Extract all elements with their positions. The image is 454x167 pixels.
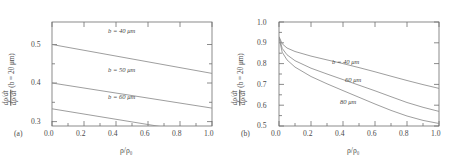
panel-b-axes xyxy=(279,22,439,126)
panel-a-xtick-3: 0.6 xyxy=(140,129,150,138)
panel-a-axes xyxy=(52,22,212,126)
panel-a-xtick-1: 0.2 xyxy=(76,129,86,138)
panel-b-xtick-5: 1.0 xyxy=(431,129,441,138)
panel-a-ytick-1: 0.4 xyxy=(31,78,41,87)
panel-a-x-axis-label: ρ/ρ₀ xyxy=(120,146,132,155)
panel-b-ytick-3: 0.7 xyxy=(257,80,267,89)
panel-b-curve-label-b40: b = 40 μm xyxy=(332,58,359,65)
panel-b-tag: (b) xyxy=(241,129,250,138)
panel-a-ytick-2: 0.3 xyxy=(31,117,41,126)
panel-a-xtick-0: 0.0 xyxy=(44,129,54,138)
panel-b-xtick-0: 0.0 xyxy=(271,129,281,138)
panel-b-curve-label-b80: 80 μm xyxy=(340,98,356,105)
panel-b-x-axis-label: ρ/ρ₀ xyxy=(347,146,359,155)
panel-b-ytick-2: 0.8 xyxy=(257,59,267,68)
panel-b-x-ticks xyxy=(279,22,439,126)
panel-b-xtick-1: 0.2 xyxy=(303,129,313,138)
panel-a-ytick-0: 0.5 xyxy=(31,40,41,49)
panel-b-xtick-4: 0.8 xyxy=(399,129,409,138)
panel-a-xtick-4: 0.8 xyxy=(172,129,182,138)
panel-b: dρ/dt dρ/dt (b = 20 μm) xyxy=(227,0,454,167)
panel-a-tag: (a) xyxy=(14,129,22,138)
panel-b-xtick-3: 0.6 xyxy=(367,129,377,138)
panel-b-xtick-2: 0.4 xyxy=(335,129,345,138)
panel-a-xtick-5: 1.0 xyxy=(204,129,214,138)
panel-b-curve-label-b60: 60 μm xyxy=(345,76,361,83)
panel-b-ytick-1: 0.9 xyxy=(257,38,267,47)
panel-a-curve-label-b40: b = 40 μm xyxy=(108,27,135,34)
panel-a-curve-label-b60: b = 60 μm xyxy=(108,93,135,100)
panel-b-ytick-4: 0.6 xyxy=(257,101,267,110)
panel-a-y-ticks xyxy=(52,45,212,122)
panel-b-ytick-5: 0.5 xyxy=(257,121,267,130)
panel-b-y-ticks xyxy=(279,22,439,126)
panel-a-curve-label-b50: b = 50 μm xyxy=(108,66,135,73)
panel-a: dρ/dt dρ/dt (b = 20 μm) xyxy=(0,0,227,167)
panel-a-xtick-2: 0.4 xyxy=(108,129,118,138)
panel-b-curve-b60 xyxy=(279,37,439,111)
figure-root: dρ/dt dρ/dt (b = 20 μm) xyxy=(0,0,454,167)
panel-a-x-ticks xyxy=(52,22,212,126)
panel-b-ytick-0: 1.0 xyxy=(257,18,267,27)
panel-a-curves xyxy=(52,45,212,136)
